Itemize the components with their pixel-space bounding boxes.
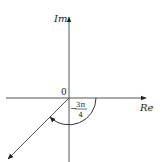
complex-plane-diagram: Im Re 0 − 3π 4 [0,0,166,162]
y-axis-label: Im [53,13,67,24]
angle-denominator: 4 [79,111,84,119]
x-axis-label: Re [139,102,154,113]
angle-ray [8,98,69,159]
origin-label: 0 [61,87,67,97]
angle-numerator: 3π [76,101,85,109]
angle-label: − 3π 4 [70,101,87,119]
